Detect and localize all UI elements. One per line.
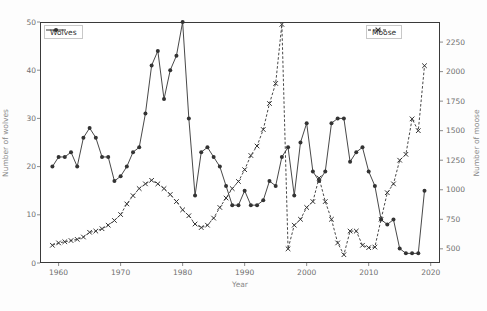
data-point <box>305 121 309 125</box>
data-point <box>193 222 198 227</box>
data-point <box>131 150 135 154</box>
data-point <box>336 116 340 120</box>
x-tick-label: 1970 <box>107 268 135 277</box>
data-point <box>218 205 223 210</box>
legend-wolves[interactable]: Wolves <box>44 25 83 39</box>
data-point <box>242 167 247 172</box>
data-point <box>100 155 104 159</box>
series-line-wolves <box>52 22 424 253</box>
data-point <box>354 150 358 154</box>
data-point <box>224 184 228 188</box>
data-point <box>261 198 265 202</box>
x-tick-label: 2020 <box>417 268 445 277</box>
data-point <box>342 116 346 120</box>
data-point <box>422 63 427 68</box>
data-point <box>199 150 203 154</box>
data-point <box>304 205 309 210</box>
data-point <box>137 145 141 149</box>
data-point <box>311 169 315 173</box>
data-point <box>391 218 395 222</box>
y-left-tick-label: 40 <box>14 66 36 75</box>
data-point <box>112 179 116 183</box>
data-point <box>292 223 297 228</box>
x-tick-label: 1980 <box>169 268 197 277</box>
data-point <box>342 252 347 257</box>
y-right-tick-label: 1250 <box>446 156 472 165</box>
data-point <box>249 153 254 158</box>
y-left-tick-label: 30 <box>14 114 36 123</box>
data-point <box>174 54 178 58</box>
data-point <box>174 199 179 204</box>
data-point <box>156 49 160 53</box>
data-point <box>180 208 185 213</box>
data-point <box>243 189 247 193</box>
data-point <box>150 63 154 67</box>
data-point <box>292 194 296 198</box>
data-point <box>199 225 204 230</box>
data-point <box>69 150 73 154</box>
data-point <box>323 169 327 173</box>
data-point <box>274 184 278 188</box>
data-point <box>255 144 260 149</box>
data-point <box>156 182 161 187</box>
data-point <box>88 126 92 130</box>
y-right-tick-label: 1500 <box>446 126 472 135</box>
data-point <box>423 189 427 193</box>
data-point <box>63 155 67 159</box>
data-point <box>218 165 222 169</box>
data-point <box>125 202 130 207</box>
data-point <box>410 251 414 255</box>
data-point <box>373 184 377 188</box>
legend-moose[interactable]: Moose <box>366 25 402 39</box>
data-point <box>50 243 55 248</box>
data-point <box>367 169 371 173</box>
data-point <box>205 223 210 228</box>
y-left-tick-label: 50 <box>14 18 36 27</box>
y-right-tick-label: 2250 <box>446 38 472 47</box>
data-point <box>131 193 136 198</box>
data-point <box>267 179 271 183</box>
y-left-axis-title: Number of wolves <box>1 109 10 177</box>
data-point <box>168 192 173 197</box>
data-point <box>230 203 234 207</box>
data-point <box>187 116 191 120</box>
series-line-moose <box>52 24 424 254</box>
data-point <box>249 203 253 207</box>
data-point <box>162 186 167 191</box>
data-point <box>81 136 85 140</box>
data-point <box>212 155 216 159</box>
data-point <box>404 251 408 255</box>
circle-marker-icon <box>45 26 67 34</box>
data-point <box>267 101 272 106</box>
data-point <box>187 213 192 218</box>
data-point <box>298 217 303 222</box>
data-point <box>354 229 359 234</box>
data-point <box>125 165 129 169</box>
data-point <box>168 68 172 72</box>
data-point <box>391 182 396 187</box>
data-point <box>416 251 420 255</box>
data-point <box>205 145 209 149</box>
data-point <box>81 235 86 240</box>
series-wolves <box>50 20 426 255</box>
x-axis-title: Year <box>220 280 260 289</box>
x-tick-label: 2000 <box>293 268 321 277</box>
y-right-tick-label: 750 <box>446 215 472 224</box>
data-point <box>348 160 352 164</box>
data-point <box>143 112 147 116</box>
x-tick-label: 2010 <box>355 268 383 277</box>
data-point <box>298 141 302 145</box>
y-left-tick-label: 20 <box>14 162 36 171</box>
y-right-tick-label: 500 <box>446 244 472 253</box>
data-point <box>94 229 99 234</box>
data-point <box>56 241 61 246</box>
data-point <box>75 165 79 169</box>
data-point <box>360 243 365 248</box>
x-marker-icon <box>367 26 389 34</box>
data-point <box>236 203 240 207</box>
y-right-tick-label: 1000 <box>446 185 472 194</box>
data-point <box>94 136 98 140</box>
data-point <box>385 222 389 226</box>
data-point <box>57 155 61 159</box>
data-point <box>137 186 142 191</box>
